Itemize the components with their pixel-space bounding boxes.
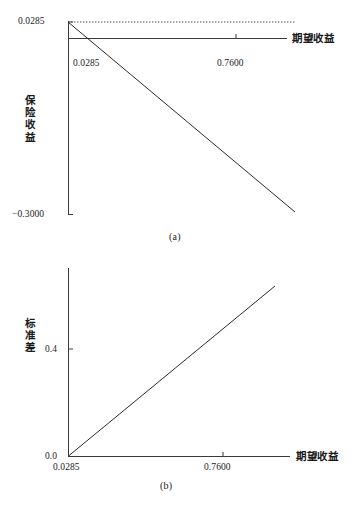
x-tick-label-origin-b: 0.0285 xyxy=(53,463,80,473)
y-tick-label-bottom-a: −0.3000 xyxy=(12,210,44,220)
x-tick-label-second-a: 0.7600 xyxy=(217,59,244,69)
figure-container: 0.0285 −0.3000 0.0285 0.7600 期望收益 保险收益 (… xyxy=(0,0,360,513)
y-tick-label-0.0-b: 0.0 xyxy=(45,452,57,462)
x-tick-label-second-b: 0.7600 xyxy=(204,463,231,473)
chart-panel-a: 0.0285 −0.3000 0.0285 0.7600 期望收益 保险收益 (… xyxy=(0,0,360,256)
chart-panel-b: 0.4 0.0 0.0285 0.7600 期望收益 标准差 (b) xyxy=(0,256,360,513)
x-axis-title-a: 期望收益 xyxy=(292,33,334,44)
panel-caption-b: (b) xyxy=(160,481,172,491)
y-axis-title-a: 保险收益 xyxy=(24,95,35,144)
y-tick-label-top-a: 0.0285 xyxy=(18,17,45,27)
y-tick-label-0.4-b: 0.4 xyxy=(45,345,57,355)
y-axis-title-b: 标准差 xyxy=(24,318,35,355)
data-line-a xyxy=(68,22,295,212)
x-axis-title-b: 期望收益 xyxy=(296,451,338,462)
panel-caption-a: (a) xyxy=(169,232,181,242)
plot-b-svg xyxy=(0,256,360,513)
data-line-b xyxy=(69,286,276,456)
x-tick-label-origin-a: 0.0285 xyxy=(73,59,100,69)
